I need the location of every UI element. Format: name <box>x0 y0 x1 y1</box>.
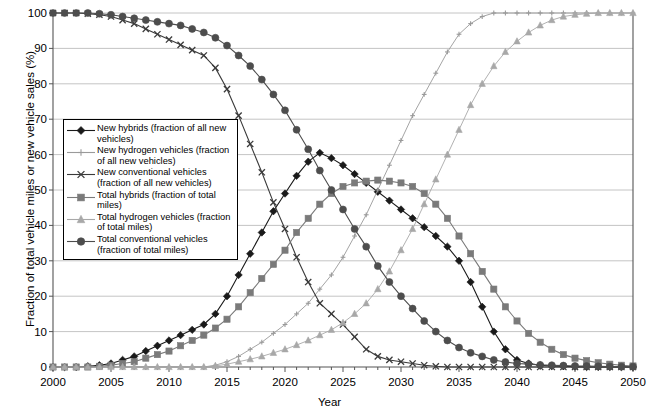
legend-marker-x-icon <box>66 168 96 181</box>
marker-square <box>201 332 207 338</box>
marker-square <box>189 337 195 343</box>
chart-legend: New hybrids (fraction of all new vehicle… <box>63 119 238 260</box>
y-axis-tick-label: 30 <box>34 255 47 267</box>
marker-square <box>398 180 404 186</box>
marker-diamond <box>154 342 161 349</box>
legend-item: New conventional vehicles (fraction of a… <box>66 167 234 188</box>
x-axis-tick-label: 2040 <box>504 376 530 388</box>
marker-circle <box>166 20 173 27</box>
marker-circle <box>548 362 555 369</box>
marker-triangle <box>456 126 462 132</box>
marker-diamond <box>467 278 474 285</box>
marker-plus <box>445 50 450 55</box>
marker-x <box>375 353 381 359</box>
marker-circle <box>606 363 613 370</box>
y-axis-tick-label: 90 <box>34 42 47 54</box>
marker-square <box>456 233 462 239</box>
marker-diamond <box>328 154 335 161</box>
marker-diamond <box>490 328 497 335</box>
marker-square <box>537 339 543 345</box>
marker-circle <box>212 34 219 41</box>
marker-circle <box>630 363 637 370</box>
marker-plus <box>352 234 357 239</box>
marker-circle <box>328 187 335 194</box>
marker-x <box>201 52 207 58</box>
marker-square <box>178 343 184 349</box>
marker-circle <box>456 344 463 351</box>
legend-item: Total hydrogen vehicles (fraction of tot… <box>66 212 234 233</box>
marker-square <box>444 215 450 221</box>
x-axis-tick-label: 2020 <box>272 376 298 388</box>
marker-x <box>154 31 160 37</box>
marker-square <box>236 304 242 310</box>
marker-circle <box>525 361 532 368</box>
marker-x <box>328 311 334 317</box>
marker-plus <box>364 212 369 217</box>
legend-item: Total hybrids (fraction of total miles) <box>66 190 234 211</box>
marker-triangle <box>514 38 520 44</box>
marker-plus <box>399 138 404 143</box>
marker-plus <box>341 255 346 260</box>
marker-circle <box>154 18 161 25</box>
marker-x <box>282 226 288 232</box>
marker-x <box>236 113 242 119</box>
x-axis-tick-label: 2000 <box>40 376 66 388</box>
marker-circle <box>224 42 231 49</box>
marker-diamond <box>479 303 486 310</box>
marker-x <box>247 141 253 147</box>
marker-circle <box>84 10 91 17</box>
marker-circle <box>316 167 323 174</box>
marker-triangle <box>502 48 508 54</box>
marker-triangle <box>351 310 357 316</box>
x-axis-tick-label: 2035 <box>446 376 472 388</box>
marker-triangle <box>467 101 473 107</box>
marker-diamond <box>142 347 149 354</box>
marker-circle <box>73 10 80 17</box>
marker-circle <box>537 361 544 368</box>
marker-diamond <box>177 331 184 338</box>
marker-square <box>386 178 392 184</box>
marker-circle <box>340 206 347 213</box>
marker-circle <box>142 17 149 24</box>
marker-circle <box>282 107 289 114</box>
y-axis-tick-label: 70 <box>34 113 47 125</box>
marker-plus <box>526 11 531 16</box>
marker-triangle <box>525 29 531 35</box>
legend-label: New conventional vehicles (fraction of a… <box>96 167 234 188</box>
y-axis-tick-label: 10 <box>34 326 47 338</box>
marker-diamond <box>258 229 265 236</box>
marker-square <box>514 318 520 324</box>
legend-marker-triangle-icon <box>66 213 96 226</box>
marker-circle <box>119 13 126 20</box>
marker-circle <box>583 363 590 370</box>
marker-circle <box>467 349 474 356</box>
marker-circle <box>131 15 138 22</box>
marker-square <box>282 247 288 253</box>
marker-x <box>270 199 276 205</box>
legend-item: New hybrids (fraction of all new vehicle… <box>66 123 234 144</box>
y-axis-tick-label: 100 <box>28 7 47 19</box>
x-axis-tick-label: 2015 <box>214 376 240 388</box>
y-axis-tick-label: 50 <box>34 184 47 196</box>
marker-triangle <box>305 337 311 343</box>
marker-triangle <box>409 225 415 231</box>
marker-plus <box>549 11 554 16</box>
marker-circle <box>479 353 486 360</box>
marker-circle <box>374 263 381 270</box>
marker-plus <box>433 71 438 76</box>
x-axis-tick-label: 2010 <box>156 376 182 388</box>
marker-circle <box>560 362 567 369</box>
marker-x <box>352 334 358 340</box>
marker-triangle <box>317 332 323 338</box>
marker-x <box>363 346 369 352</box>
marker-circle <box>444 337 451 344</box>
legend-label: New hybrids (fraction of all new vehicle… <box>96 123 234 144</box>
marker-square <box>143 355 149 361</box>
marker-square <box>154 352 160 358</box>
y-axis-tick-label: 40 <box>34 219 47 231</box>
legend-item: New hydrogen vehicles (fraction of all n… <box>66 145 234 166</box>
marker-square <box>352 180 358 186</box>
marker-circle <box>258 76 265 83</box>
marker-square <box>491 286 497 292</box>
marker-x <box>259 169 265 175</box>
